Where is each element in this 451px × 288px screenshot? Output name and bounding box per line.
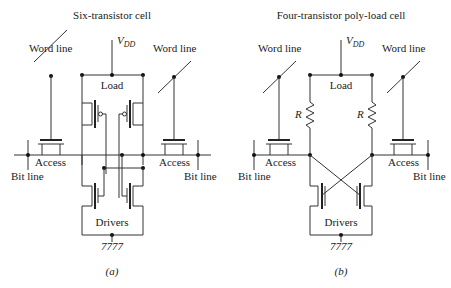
- panel-a-access-left: Access: [35, 156, 66, 168]
- ground-icon: 7777: [101, 240, 124, 252]
- panel-a-title: Six-transistor cell: [73, 9, 151, 21]
- panel-b-title: Four-transistor poly-load cell: [277, 9, 406, 21]
- nmos-driver-left-icon-b: [310, 155, 325, 235]
- panel-a-access-right: Access: [159, 156, 190, 168]
- panel-b-resistor-right-label: R: [356, 108, 364, 120]
- panel-b-drivers-label: Drivers: [325, 216, 358, 228]
- panel-b-four-transistor: Four-transistor poly-load cell VDD Load …: [238, 9, 446, 278]
- panel-b-access-left: Access: [265, 156, 296, 168]
- panel-b-word-line-right: Word line: [382, 42, 426, 54]
- panel-b-bit-line-left: Bit line: [238, 170, 271, 182]
- panel-b-vdd-label: VDD: [346, 34, 365, 49]
- panel-a-six-transistor: Six-transistor cell VDD Load: [11, 9, 217, 278]
- access-left-icon-b: [252, 61, 296, 170]
- resistor-left-icon: [306, 75, 314, 155]
- panel-a-caption: (a): [106, 265, 119, 278]
- resistor-right-icon: [368, 75, 376, 155]
- panel-a-drivers-label: Drivers: [96, 216, 129, 228]
- sram-cell-diagram: Six-transistor cell VDD Load: [0, 0, 451, 288]
- panel-a-load-label: Load: [101, 79, 124, 91]
- panel-b-bit-line-right: Bit line: [413, 170, 446, 182]
- access-right-icon-b: [387, 61, 430, 170]
- pmos-right-icon: [119, 75, 143, 198]
- ground-icon-b: 7777: [330, 240, 353, 252]
- panel-a-bit-line-left: Bit line: [11, 170, 44, 182]
- panel-b-access-right: Access: [388, 156, 419, 168]
- panel-a-word-line-left: Word line: [29, 42, 73, 54]
- access-right-icon: [158, 61, 200, 170]
- panel-a-vdd-label: VDD: [117, 34, 136, 49]
- panel-b-word-line-left: Word line: [258, 42, 302, 54]
- panel-b-resistor-left-label: R: [294, 108, 302, 120]
- panel-a-word-line-right: Word line: [153, 42, 197, 54]
- nmos-driver-right-icon-b: [357, 155, 372, 235]
- panel-a-bit-line-right: Bit line: [184, 170, 217, 182]
- panel-b-load-label: Load: [330, 79, 353, 91]
- panel-b-caption: (b): [335, 265, 348, 278]
